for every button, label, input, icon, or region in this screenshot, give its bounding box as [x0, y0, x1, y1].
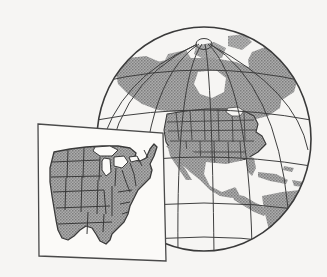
inset-map-card[interactable] — [38, 124, 166, 261]
illustration-root — [0, 0, 327, 277]
globe-illustration-svg — [0, 0, 327, 277]
